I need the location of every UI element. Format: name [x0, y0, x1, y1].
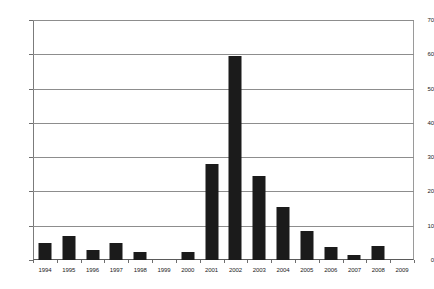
x-axis-tick-mark: [176, 260, 177, 263]
x-axis-tick-mark: [271, 260, 272, 263]
x-axis-tick-mark: [319, 260, 320, 263]
bar[interactable]: [229, 56, 242, 260]
x-axis-tick-mark: [224, 260, 225, 263]
bar-slot: [319, 20, 343, 260]
bar-slot: [295, 20, 319, 260]
x-axis: 1994199519961997199819992000200120022003…: [33, 260, 414, 284]
bar-slot: [224, 20, 248, 260]
bar-slot: [33, 20, 57, 260]
bar[interactable]: [86, 250, 99, 260]
x-axis-tick-mark: [104, 260, 105, 263]
bar[interactable]: [181, 252, 194, 260]
bar[interactable]: [300, 231, 313, 260]
x-axis-tick-mark: [152, 260, 153, 263]
bar-slot: [104, 20, 128, 260]
bar-slot: [390, 20, 414, 260]
bar[interactable]: [253, 176, 266, 260]
x-axis-tick-mark: [295, 260, 296, 263]
x-axis-tick-mark: [247, 260, 248, 263]
bar-chart: 010203040506070 199419951996199719981999…: [0, 0, 434, 289]
bar-slot: [152, 20, 176, 260]
bar[interactable]: [110, 243, 123, 260]
bar-slot: [128, 20, 152, 260]
x-axis-tick-mark: [366, 260, 367, 263]
bar[interactable]: [277, 207, 290, 260]
x-axis-tick-mark: [200, 260, 201, 263]
bar[interactable]: [324, 247, 337, 260]
bar-slot: [57, 20, 81, 260]
bars-layer: [33, 20, 414, 260]
bar-slot: [271, 20, 295, 260]
x-axis-tick-mark: [33, 260, 34, 263]
x-axis-tick-mark: [81, 260, 82, 263]
bar-slot: [176, 20, 200, 260]
bar-slot: [81, 20, 105, 260]
x-axis-tick-label: 2009: [387, 267, 417, 274]
bar-slot: [366, 20, 390, 260]
x-axis-tick-mark: [414, 260, 415, 263]
bar-slot: [200, 20, 224, 260]
bar[interactable]: [134, 252, 147, 260]
x-axis-tick-mark: [57, 260, 58, 263]
x-axis-tick-mark: [343, 260, 344, 263]
bar[interactable]: [38, 243, 51, 260]
bar[interactable]: [62, 236, 75, 260]
bar[interactable]: [205, 164, 218, 260]
bar-slot: [247, 20, 271, 260]
bar[interactable]: [372, 246, 385, 260]
x-axis-tick-mark: [390, 260, 391, 263]
bar-slot: [343, 20, 367, 260]
x-axis-tick-mark: [128, 260, 129, 263]
